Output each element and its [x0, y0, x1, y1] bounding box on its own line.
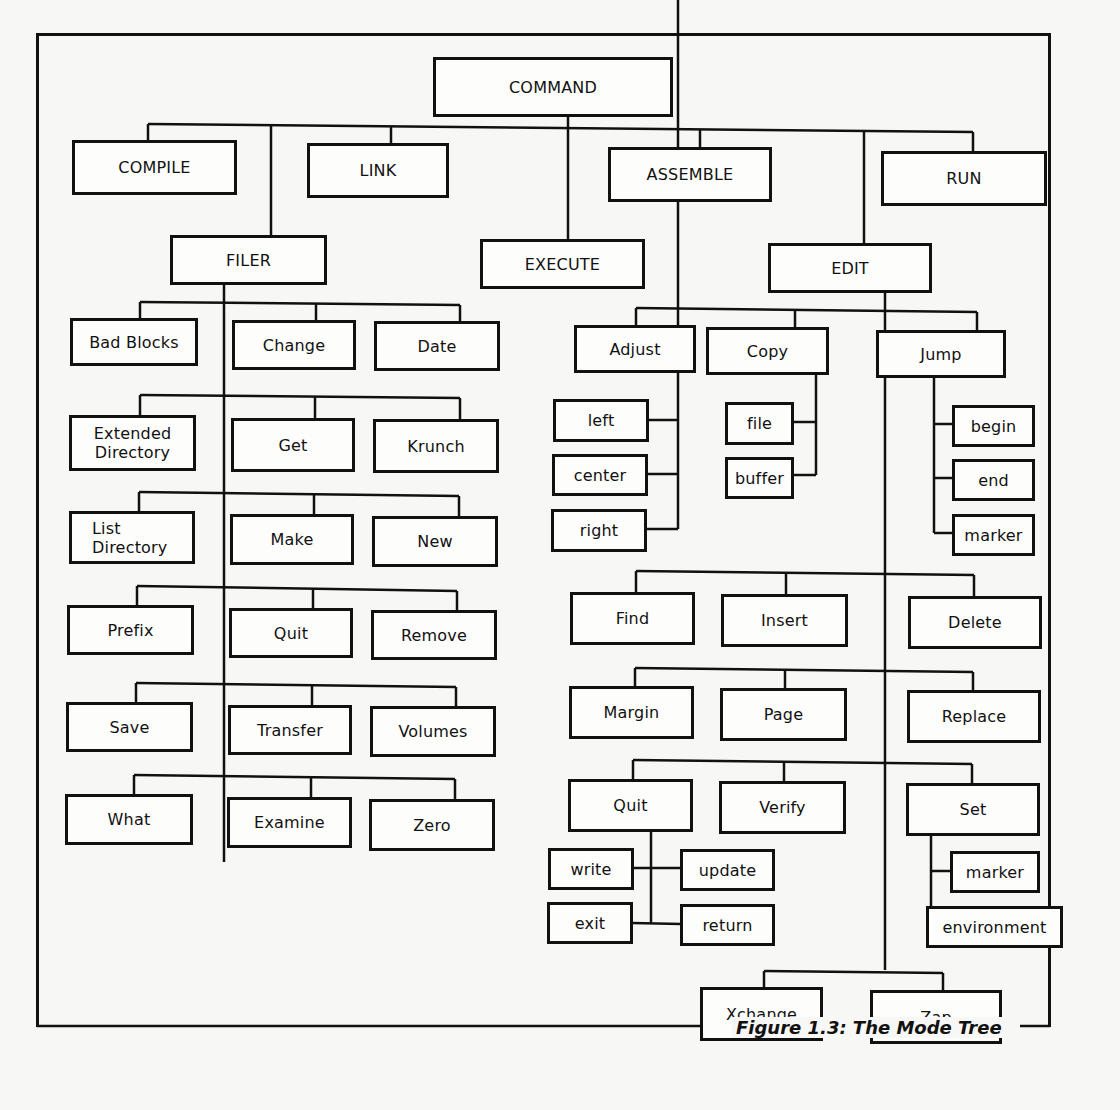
node-quit-return[interactable]: return: [680, 904, 775, 946]
node-label: LINK: [360, 161, 397, 180]
node-label: FILER: [226, 251, 271, 270]
node-label: marker: [964, 526, 1022, 545]
node-label: RUN: [946, 169, 981, 188]
node-label: What: [108, 810, 151, 829]
node-label: Margin: [604, 703, 660, 722]
node-label: Examine: [254, 813, 325, 832]
node-label: Get: [278, 436, 307, 455]
node-zero[interactable]: Zero: [369, 799, 495, 851]
node-label: exit: [575, 914, 606, 933]
node-copy[interactable]: Copy: [706, 327, 829, 375]
node-adjust[interactable]: Adjust: [574, 325, 696, 373]
node-adjust-right[interactable]: right: [551, 509, 647, 552]
node-page[interactable]: Page: [720, 688, 847, 741]
node-prefix[interactable]: Prefix: [67, 605, 194, 655]
node-label: Page: [764, 705, 804, 724]
node-command[interactable]: COMMAND: [433, 57, 673, 117]
node-label: Copy: [747, 342, 788, 361]
node-quit-write[interactable]: write: [548, 848, 634, 890]
node-jump-end[interactable]: end: [952, 459, 1035, 501]
node-save[interactable]: Save: [66, 702, 193, 752]
node-label: Date: [417, 337, 456, 356]
node-copy-file[interactable]: file: [725, 402, 794, 445]
node-label: Delete: [948, 613, 1002, 632]
node-label: Jump: [920, 345, 961, 364]
node-new[interactable]: New: [372, 516, 498, 567]
node-remove[interactable]: Remove: [371, 610, 497, 660]
node-quit-exit[interactable]: exit: [547, 902, 633, 944]
node-adjust-left[interactable]: left: [553, 399, 649, 442]
node-label: center: [574, 466, 627, 485]
node-link[interactable]: LINK: [307, 143, 449, 198]
node-label: Adjust: [609, 340, 660, 359]
node-label: Find: [616, 609, 650, 628]
node-replace[interactable]: Replace: [907, 690, 1041, 743]
node-find[interactable]: Find: [570, 592, 695, 645]
node-date[interactable]: Date: [374, 321, 500, 371]
node-examine[interactable]: Examine: [227, 797, 352, 848]
node-label: Transfer: [257, 721, 323, 740]
node-edit-quit[interactable]: Quit: [568, 779, 693, 832]
node-volumes[interactable]: Volumes: [370, 706, 496, 757]
node-label: left: [588, 411, 615, 430]
node-bad-blocks[interactable]: Bad Blocks: [70, 318, 198, 366]
node-label: Bad Blocks: [89, 333, 179, 352]
node-jump-begin[interactable]: begin: [952, 405, 1035, 447]
node-assemble[interactable]: ASSEMBLE: [608, 147, 772, 202]
node-list-directory[interactable]: List Directory: [69, 511, 195, 564]
node-label: COMMAND: [509, 78, 597, 97]
node-label: file: [747, 414, 772, 433]
node-label: end: [978, 471, 1009, 490]
node-jump[interactable]: Jump: [876, 330, 1006, 378]
node-label: EDIT: [831, 259, 869, 278]
node-insert[interactable]: Insert: [721, 594, 848, 647]
node-label: Krunch: [407, 437, 465, 456]
node-margin[interactable]: Margin: [569, 686, 694, 739]
node-label: Insert: [761, 611, 808, 630]
node-label: marker: [966, 863, 1024, 882]
node-label: right: [580, 521, 619, 540]
node-set-marker[interactable]: marker: [950, 851, 1040, 893]
node-what[interactable]: What: [65, 794, 193, 845]
node-edit[interactable]: EDIT: [768, 243, 932, 293]
node-make[interactable]: Make: [230, 514, 354, 565]
node-label: Save: [109, 718, 149, 737]
node-compile[interactable]: COMPILE: [72, 140, 237, 195]
node-label: Change: [263, 336, 325, 355]
node-execute[interactable]: EXECUTE: [480, 239, 645, 289]
node-set[interactable]: Set: [906, 783, 1040, 836]
node-label: Quit: [274, 624, 308, 643]
node-label: Replace: [942, 707, 1007, 726]
node-get[interactable]: Get: [231, 418, 355, 472]
node-label: Verify: [759, 798, 806, 817]
node-delete[interactable]: Delete: [908, 596, 1042, 649]
node-label: Make: [271, 530, 314, 549]
node-label: Quit: [613, 796, 647, 815]
node-label: EXECUTE: [525, 255, 600, 274]
node-copy-buffer[interactable]: buffer: [725, 457, 794, 499]
node-quit[interactable]: Quit: [229, 608, 353, 658]
node-extended-directory[interactable]: Extended Directory: [69, 415, 196, 471]
node-label: New: [417, 532, 453, 551]
node-label: begin: [971, 417, 1017, 436]
node-adjust-center[interactable]: center: [552, 454, 648, 496]
node-label: return: [702, 916, 752, 935]
node-label: buffer: [735, 469, 784, 488]
node-krunch[interactable]: Krunch: [373, 419, 499, 473]
node-label: Set: [960, 800, 987, 819]
node-transfer[interactable]: Transfer: [228, 705, 352, 755]
node-label: Remove: [401, 626, 467, 645]
node-label: write: [570, 860, 611, 879]
node-label: COMPILE: [118, 158, 190, 177]
node-label: Zero: [413, 816, 451, 835]
node-run[interactable]: RUN: [881, 151, 1047, 206]
node-label: List Directory: [92, 519, 172, 557]
node-set-environment[interactable]: environment: [926, 906, 1063, 948]
figure-caption: Figure 1.3: The Mode Tree: [732, 1017, 1006, 1038]
node-quit-update[interactable]: update: [680, 849, 775, 891]
node-jump-marker[interactable]: marker: [952, 514, 1035, 556]
node-filer[interactable]: FILER: [170, 235, 327, 285]
node-change[interactable]: Change: [232, 320, 356, 370]
node-verify[interactable]: Verify: [719, 781, 846, 834]
node-label: Prefix: [107, 621, 153, 640]
